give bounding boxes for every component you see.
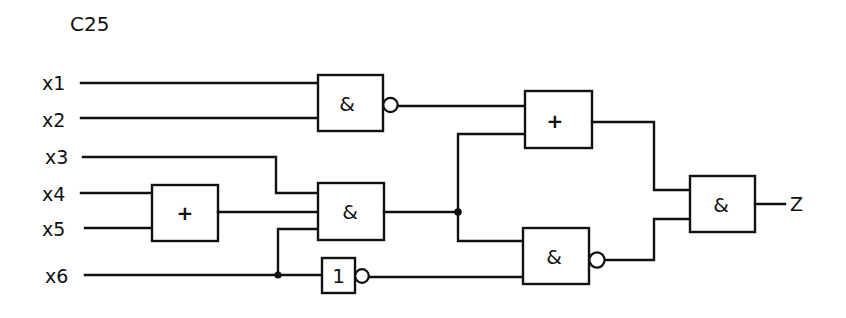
gate-and-final: & xyxy=(690,176,755,232)
or-symbol: + xyxy=(177,201,194,225)
and-symbol: & xyxy=(546,245,562,269)
and-symbol: & xyxy=(713,193,729,217)
wire-g6-out xyxy=(605,219,690,260)
circuit-title: C25 xyxy=(70,12,109,36)
and-symbol: & xyxy=(342,200,358,224)
inversion-bubble xyxy=(383,98,397,112)
input-label-x4: x4 xyxy=(42,183,65,205)
gate-not-x6: 1 xyxy=(322,258,369,293)
and-symbol: & xyxy=(339,92,355,116)
gate-nand-lower: & xyxy=(523,228,605,284)
input-label-x5: x5 xyxy=(42,218,65,240)
output-label-z: Z xyxy=(790,193,803,215)
junction-g3 xyxy=(454,208,462,216)
wire-x6-branch xyxy=(278,229,318,275)
gate-nand-x1-x2: & xyxy=(318,75,398,131)
logic-circuit-diagram: C25 x1 x2 x3 x4 x5 x6 + & & 1 + xyxy=(0,0,846,318)
not-symbol: 1 xyxy=(332,264,345,288)
wire-g3-fanout xyxy=(458,134,525,241)
inversion-bubble xyxy=(589,252,604,267)
input-label-x3: x3 xyxy=(45,146,68,168)
gate-and-middle: & xyxy=(318,183,384,240)
input-label-x2: x2 xyxy=(42,109,65,131)
wire-g5-out xyxy=(592,122,690,190)
junction-x6 xyxy=(274,271,281,278)
gate-or-x4-x5: + xyxy=(152,185,218,241)
inversion-bubble xyxy=(355,269,369,283)
input-label-x6: x6 xyxy=(45,265,68,287)
input-label-x1: x1 xyxy=(42,72,65,94)
gate-or-upper: + xyxy=(525,91,592,148)
or-symbol: + xyxy=(547,109,564,133)
